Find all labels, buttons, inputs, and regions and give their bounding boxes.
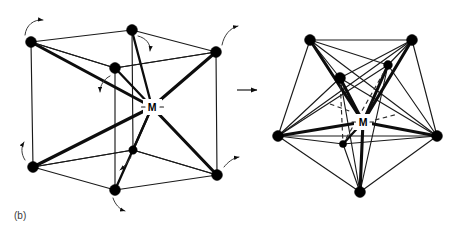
arrow-back-top-right [138, 36, 150, 51]
vertex-front-bot-right [212, 170, 223, 181]
vertex-back-top-left [26, 37, 37, 48]
panel-label: (b) [14, 210, 26, 221]
vertex-front-top-left [110, 63, 121, 74]
cube-center-marker: M [142, 99, 164, 115]
arrow-front-bot-left [113, 198, 125, 211]
arrow-front-top-right [222, 26, 238, 45]
vertex-back-bot-left [28, 162, 39, 173]
arrow-back-top-left [25, 20, 43, 35]
vertex-top-left [305, 35, 316, 46]
vertex-left [273, 131, 284, 142]
vertex-inner-lower [339, 140, 346, 147]
arrow-back-bot-left [22, 142, 25, 160]
vertex-front-bot-left [110, 185, 121, 196]
figure-container: M [0, 0, 471, 229]
center-atom-label-right: M [359, 116, 368, 128]
vertex-back-top-right [127, 25, 138, 36]
right-structure-group: M [273, 35, 443, 198]
cube-rotation-arrows [22, 20, 239, 211]
vertex-back-bot-right [129, 146, 137, 154]
vertex-inner-upper-left [335, 73, 346, 84]
vertex-bottom [355, 187, 366, 198]
left-structure-group: M [22, 20, 239, 211]
vertex-top-right [407, 35, 418, 46]
cube-top-face-edges [31, 30, 216, 68]
arrow-front-bot-right [224, 157, 239, 167]
dodec-center-marker: M [352, 114, 374, 130]
center-atom-label-left: M [148, 101, 157, 113]
polyhedron-diagram-svg: M [0, 0, 471, 229]
vertex-front-top-right [211, 47, 222, 58]
vertex-inner-upper-right [384, 61, 393, 70]
vertex-right [432, 131, 443, 142]
